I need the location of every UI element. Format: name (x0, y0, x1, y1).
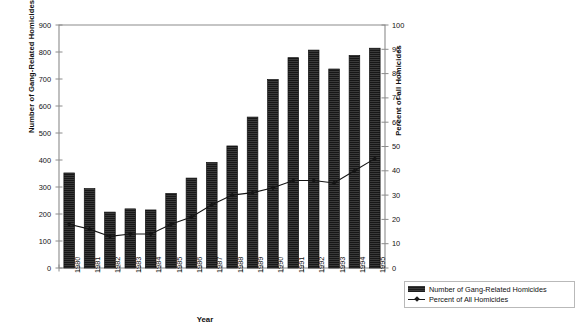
x-tick-label: 1984 (154, 257, 163, 273)
x-tick-label: 1991 (297, 257, 306, 273)
y-tick-label-right: 40 (392, 166, 422, 175)
y-tick-label-left: 500 (21, 129, 51, 138)
x-tick-label: 1980 (73, 257, 82, 273)
legend-bar-swatch-icon (408, 286, 425, 292)
y-tick-label-right: 80 (392, 69, 422, 78)
x-tick-label: 1987 (215, 257, 224, 273)
y-tick-label-left: 0 (21, 264, 51, 273)
x-tick-label: 1986 (195, 257, 204, 273)
y-tick-label-left: 700 (21, 75, 51, 84)
chart-legend: Number of Gang-Related Homicides Percent… (404, 281, 575, 308)
y-tick-label-right: 10 (392, 239, 422, 248)
legend-item-bars: Number of Gang-Related Homicides (408, 284, 571, 294)
y-tick-label-right: 20 (392, 215, 422, 224)
legend-item-line: Percent of All Homicides (408, 294, 571, 304)
y-tick-label-right: 0 (392, 264, 422, 273)
y-tick-label-right: 50 (392, 142, 422, 151)
x-tick-label: 1990 (276, 257, 285, 273)
x-tick-label: 1988 (236, 257, 245, 273)
y-tick-label-right: 30 (392, 191, 422, 200)
legend-line-swatch-icon (408, 296, 425, 303)
chart-figure: Number of Gang-Related Homicides Percent… (0, 0, 578, 330)
x-tick-label: 1995 (378, 257, 387, 273)
y-tick-label-right: 60 (392, 118, 422, 127)
y-tick-label-right: 100 (392, 21, 422, 30)
legend-label-line: Percent of All Homicides (429, 295, 508, 304)
y-tick-label-right: 90 (392, 45, 422, 54)
x-tick-label: 1993 (338, 257, 347, 273)
x-tick-label: 1981 (93, 257, 102, 273)
x-tick-label: 1983 (134, 257, 143, 273)
y-tick-label-left: 200 (21, 210, 51, 219)
y-tick-label-right: 70 (392, 93, 422, 102)
x-tick-label: 1982 (113, 257, 122, 273)
y-tick-label-left: 400 (21, 156, 51, 165)
y-tick-label-left: 600 (21, 102, 51, 111)
y-tick-label-left: 900 (21, 21, 51, 30)
x-tick-label: 1992 (317, 257, 326, 273)
x-tick-label: 1989 (256, 257, 265, 273)
y-tick-label-left: 800 (21, 48, 51, 57)
y-tick-label-left: 100 (21, 237, 51, 246)
x-tick-label: 1994 (358, 257, 367, 273)
legend-label-bars: Number of Gang-Related Homicides (429, 285, 547, 294)
y-tick-label-left: 300 (21, 183, 51, 192)
x-tick-label: 1985 (175, 257, 184, 273)
